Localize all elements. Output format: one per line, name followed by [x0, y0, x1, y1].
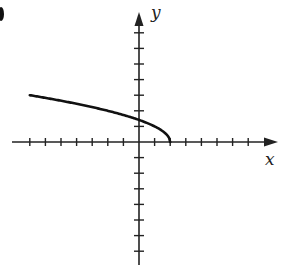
function-curve [30, 95, 170, 142]
y-axis-arrow-icon [135, 12, 144, 26]
axes [12, 12, 278, 265]
x-axis-label: x [265, 149, 275, 169]
graph: x y [0, 0, 305, 269]
cutoff-label-mark [0, 7, 4, 21]
y-axis-label: y [150, 2, 161, 22]
x-axis-arrow-icon [264, 138, 278, 147]
